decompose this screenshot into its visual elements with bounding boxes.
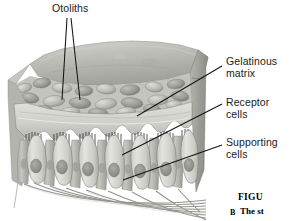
caption-figure-word: FIGU: [238, 192, 263, 202]
label-supporting-cells-line2: cells: [226, 148, 248, 160]
figure-root: Otoliths Gelatinousmatrix Receptorcells …: [0, 0, 289, 221]
label-otoliths: Otoliths: [52, 3, 88, 15]
label-gelatinous-matrix: Gelatinousmatrix: [226, 56, 277, 79]
caption-body: The st: [240, 206, 264, 216]
label-receptor-cells-line2: cells: [226, 108, 248, 120]
cell-layer: [17, 130, 198, 191]
label-supporting-cells-line1: Supporting: [226, 136, 278, 148]
label-gelatinous-matrix-line1: Gelatinous: [226, 55, 277, 67]
caption-panel-letter: B: [230, 208, 235, 217]
label-receptor-cells: Receptorcells: [226, 97, 269, 120]
label-receptor-cells-line1: Receptor: [226, 96, 269, 108]
label-gelatinous-matrix-line2: matrix: [226, 67, 255, 79]
label-supporting-cells: Supportingcells: [226, 137, 278, 160]
